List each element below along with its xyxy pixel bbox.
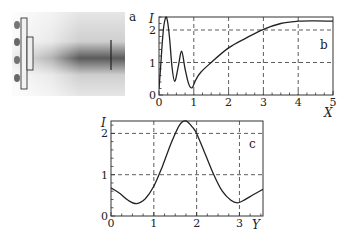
y-tick-label: 1 <box>149 57 156 70</box>
x-tick-label: 2 <box>193 217 200 230</box>
x-axis-label: X <box>323 106 333 120</box>
x-tick-label: 0 <box>108 217 115 230</box>
x-tick-label: 0 <box>156 96 163 109</box>
panel-label: c <box>249 137 256 151</box>
plot-frame <box>159 17 333 95</box>
panel-a-image <box>12 12 125 96</box>
x-tick-label: 3 <box>236 217 243 230</box>
x-tick-label: 2 <box>225 96 232 109</box>
x-tick-label: 4 <box>295 96 302 109</box>
y-axis-label: I <box>100 116 106 130</box>
panel-a-label: a <box>129 10 136 24</box>
figure: a 012345012IXb 0123012IYc <box>0 0 346 238</box>
y-tick-label: 1 <box>101 169 108 182</box>
structure-outline <box>21 18 27 89</box>
x-axis-label: Y <box>252 218 261 232</box>
chart-b: 012345012IXb <box>148 12 337 120</box>
panel-label: b <box>320 38 328 52</box>
data-curve <box>159 17 333 88</box>
chart-c: 0123012IYc <box>100 116 263 232</box>
y-axis-label: I <box>148 12 154 26</box>
y-tick-label: 0 <box>149 89 156 102</box>
y-tick-label: 0 <box>101 210 108 223</box>
x-tick-label: 1 <box>190 96 197 109</box>
x-tick-label: 3 <box>260 96 267 109</box>
x-tick-label: 1 <box>150 217 157 230</box>
